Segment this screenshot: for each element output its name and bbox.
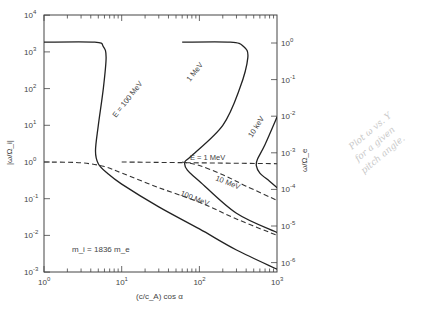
- y-left-tick-label: 102: [24, 83, 37, 94]
- curve-label: E = 100 MeV: [110, 79, 144, 119]
- curve-label: E = 1 MeV: [190, 153, 225, 162]
- plot-border: [44, 15, 277, 272]
- y-right-tick-label: 10-6: [281, 257, 296, 268]
- x-tick-label: 101: [116, 276, 129, 287]
- curve-label: 1 MeV: [184, 61, 204, 84]
- chart: 10010110210310-310-210-11001011021031041…: [0, 0, 434, 315]
- plot-frame: [44, 15, 277, 272]
- y-left-tick-label: 104: [24, 9, 37, 20]
- ticks: [44, 15, 277, 272]
- series-curve: [122, 162, 277, 164]
- series-curve: [44, 162, 277, 235]
- series-curve: [44, 42, 277, 269]
- y-left-tick-label: 103: [24, 46, 37, 57]
- y-right-axis-label: ω/Ω_e: [300, 148, 309, 172]
- y-left-tick-label: 10-3: [24, 266, 39, 277]
- y-left-tick-label: 10-1: [24, 193, 39, 204]
- y-left-tick-label: 101: [24, 119, 37, 130]
- labels: 10010110210310-310-210-11001011021031041…: [5, 9, 407, 301]
- y-right-tick-label: 10-5: [281, 220, 296, 231]
- curve-label: 100 MeV: [179, 189, 210, 209]
- y-right-tick-label: 10-4: [281, 183, 296, 194]
- curve-label: 10 keV: [246, 114, 266, 139]
- y-right-tick-label: 10-3: [281, 147, 296, 158]
- x-tick-label: 100: [38, 276, 51, 287]
- x-tick-label: 103: [271, 276, 284, 287]
- curve-label: 10 MeV: [214, 174, 241, 192]
- y-right-tick-label: 100: [281, 37, 294, 48]
- x-axis-label: (c/c_A) cos α: [136, 292, 183, 301]
- y-right-tick-label: 10-2: [281, 110, 296, 121]
- mass-ratio-annotation: m_i = 1836 m_e: [72, 245, 130, 254]
- y-left-tick-label: 10-2: [24, 229, 39, 240]
- x-tick-label: 102: [193, 276, 206, 287]
- y-right-tick-label: 10-1: [281, 74, 296, 85]
- curves: [44, 42, 277, 269]
- y-left-axis-label: |ω/Ω_i|: [5, 140, 14, 165]
- y-left-tick-label: 100: [24, 156, 37, 167]
